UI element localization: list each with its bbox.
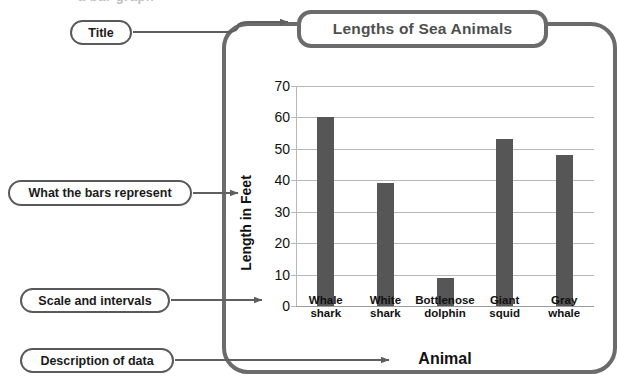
gridline <box>296 86 594 87</box>
callout-scale-label: Scale and intervals <box>38 294 151 308</box>
bar <box>377 183 394 306</box>
y-axis-label: Length in Feet <box>238 158 254 288</box>
gridline <box>296 117 594 118</box>
y-axis-tick-mark <box>291 149 296 150</box>
y-axis-tick-label: 70 <box>274 78 290 94</box>
callout-description-label: Description of data <box>40 354 153 368</box>
y-axis-tick-label: 20 <box>274 235 290 251</box>
gridline <box>296 243 594 244</box>
gridline <box>296 275 594 276</box>
callout-description-of-data: Description of data <box>20 348 174 373</box>
y-axis-tick-mark <box>291 243 296 244</box>
y-axis-tick-label: 30 <box>274 204 290 220</box>
bar <box>317 117 334 306</box>
callout-bars-label: What the bars represent <box>28 186 171 200</box>
y-axis-tick-mark <box>291 275 296 276</box>
y-axis-tick-mark <box>291 180 296 181</box>
gridline <box>296 180 594 181</box>
bar-chart: Length in Feet 010203040506070 Animal Wh… <box>240 70 600 370</box>
y-axis-tick-mark <box>291 86 296 87</box>
y-axis-line <box>296 86 297 306</box>
callout-title-label: Title <box>88 26 113 40</box>
y-axis-tick-label: 60 <box>274 109 290 125</box>
y-axis-tick-mark <box>291 212 296 213</box>
cut-off-heading-text: a bar graph <box>78 0 154 4</box>
bar <box>556 155 573 306</box>
x-axis-title: Animal <box>296 350 594 368</box>
y-axis-tick-mark <box>291 117 296 118</box>
chart-title: Lengths of Sea Animals <box>333 20 513 38</box>
y-axis-tick-label: 50 <box>274 141 290 157</box>
gridline <box>296 212 594 213</box>
plot-area: 010203040506070 <box>296 86 594 306</box>
y-axis-tick-label: 10 <box>274 267 290 283</box>
y-axis-tick-label: 40 <box>274 172 290 188</box>
gridline <box>296 149 594 150</box>
x-axis-tick-label: Graywhale <box>527 294 601 320</box>
callout-scale-and-intervals: Scale and intervals <box>20 288 170 313</box>
bar <box>496 139 513 306</box>
callout-what-the-bars-represent: What the bars represent <box>8 180 192 206</box>
callout-title: Title <box>70 20 132 45</box>
chart-title-box: Lengths of Sea Animals <box>297 10 548 48</box>
